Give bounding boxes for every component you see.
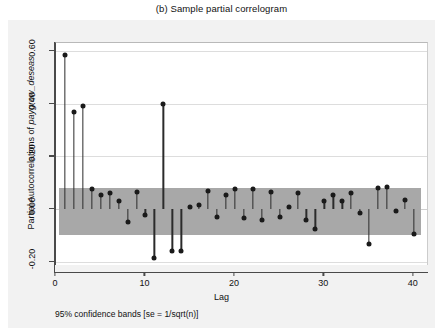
pacf-point xyxy=(116,199,121,204)
pacf-point xyxy=(161,102,166,107)
pacf-point xyxy=(134,190,139,195)
pacf-stem xyxy=(234,189,235,209)
x-tick-mark xyxy=(144,272,145,276)
pacf-stem xyxy=(154,209,155,258)
gridline-y xyxy=(56,104,427,105)
pacf-point xyxy=(170,249,175,254)
x-tick-mark xyxy=(412,272,413,276)
pacf-stem xyxy=(252,189,253,209)
chart-card: -0.200.000.200.400.60 Partial Autocorrel… xyxy=(8,20,435,328)
pacf-point xyxy=(206,188,211,193)
pacf-point xyxy=(367,241,372,246)
gridline-y xyxy=(56,156,427,157)
pacf-point xyxy=(89,187,94,192)
pacf-point xyxy=(259,217,264,222)
pacf-point xyxy=(277,215,282,220)
x-tick-label: 0 xyxy=(52,278,57,288)
y-tick-mark xyxy=(49,103,54,104)
x-axis-title: Lag xyxy=(8,292,435,302)
pacf-point xyxy=(250,187,255,192)
pacf-point xyxy=(62,52,67,57)
pacf-stem xyxy=(163,104,164,209)
pacf-point xyxy=(286,204,291,209)
pacf-point xyxy=(107,191,112,196)
pacf-point xyxy=(295,191,300,196)
pacf-point xyxy=(331,192,336,197)
y-axis-title-variable: paygrow_deseas xyxy=(26,56,36,124)
pacf-point xyxy=(125,220,130,225)
y-axis-title-prefix: Partial Autocorrelations of xyxy=(26,125,36,230)
pacf-stem xyxy=(377,188,378,209)
pacf-point xyxy=(71,110,76,115)
y-axis-line xyxy=(54,42,55,273)
pacf-point xyxy=(402,198,407,203)
pacf-point xyxy=(179,249,184,254)
pacf-point xyxy=(376,186,381,191)
figure-title: (b) Sample partial correlogram xyxy=(0,3,443,14)
pacf-stem xyxy=(73,112,74,209)
pacf-stem xyxy=(136,192,137,209)
pacf-point xyxy=(304,217,309,222)
y-tick-mark xyxy=(49,155,54,156)
x-tick-label: 20 xyxy=(229,278,239,288)
pacf-stem xyxy=(64,55,65,209)
gridline-y xyxy=(56,262,427,263)
pacf-point xyxy=(80,104,85,109)
pacf-point xyxy=(358,211,363,216)
pacf-stem xyxy=(368,209,369,243)
plot-area xyxy=(55,42,428,265)
confidence-band xyxy=(59,188,421,235)
pacf-stem xyxy=(82,106,83,209)
x-axis-line xyxy=(55,272,428,273)
pacf-point xyxy=(188,204,193,209)
y-tick-mark xyxy=(49,208,54,209)
y-tick-mark xyxy=(49,261,54,262)
pacf-stem xyxy=(91,189,92,209)
pacf-point xyxy=(384,184,389,189)
pacf-point xyxy=(241,216,246,221)
pacf-point xyxy=(268,190,273,195)
pacf-point xyxy=(143,212,148,217)
pacf-point xyxy=(232,187,237,192)
pacf-stem xyxy=(270,192,271,209)
x-tick-mark xyxy=(323,272,324,276)
figure-root: (b) Sample partial correlogram -0.200.00… xyxy=(0,0,443,335)
pacf-point xyxy=(340,199,345,204)
pacf-stem xyxy=(413,209,414,234)
pacf-point xyxy=(152,256,157,261)
pacf-point xyxy=(313,227,318,232)
plot-inner xyxy=(56,43,427,265)
x-tick-label: 40 xyxy=(408,278,418,288)
pacf-stem xyxy=(207,191,208,209)
pacf-point xyxy=(393,208,398,213)
x-tick-mark xyxy=(233,272,234,276)
pacf-point xyxy=(411,232,416,237)
x-tick-label: 30 xyxy=(318,278,328,288)
confidence-band-note: 95% confidence bands [se = 1/sqrt(n)] xyxy=(55,309,198,319)
pacf-point xyxy=(98,192,103,197)
pacf-stem xyxy=(386,187,387,209)
pacf-stem xyxy=(181,209,182,251)
x-tick-mark xyxy=(54,272,55,276)
pacf-point xyxy=(322,199,327,204)
pacf-stem xyxy=(172,209,173,251)
pacf-point xyxy=(349,191,354,196)
y-axis-title: Partial Autocorrelations of paygrow_dese… xyxy=(26,23,36,263)
y-tick-mark xyxy=(49,50,54,51)
gridline-y xyxy=(56,51,427,52)
x-tick-label: 10 xyxy=(139,278,149,288)
pacf-point xyxy=(197,203,202,208)
pacf-point xyxy=(215,215,220,220)
pacf-point xyxy=(223,192,228,197)
